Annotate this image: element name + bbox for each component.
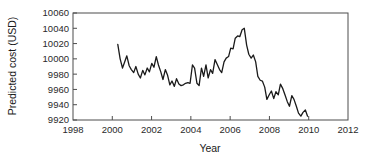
x-tick-label: 2002 [141,124,162,135]
x-tick-label: 2006 [220,124,241,135]
x-tick-label: 2000 [102,124,123,135]
y-tick-label: 10040 [43,23,69,34]
y-axis-title: Predicted cost (USD) [6,17,18,116]
x-tick-label: 2004 [180,124,201,135]
x-tick-label: 1998 [62,124,83,135]
y-tick-label: 9980 [48,69,69,80]
y-tick-label: 9940 [48,99,69,110]
y-tick-label: 10000 [43,53,69,64]
x-tick-label: 2008 [259,124,280,135]
x-tick-label: 2012 [337,124,358,135]
y-tick-label: 9960 [48,84,69,95]
x-axis-title: Year [199,142,221,154]
x-tick-label: 2010 [298,124,319,135]
chart-figure: 992099409960998010000100201004010060 199… [0,0,375,160]
y-tick-label: 10020 [43,38,69,49]
y-tick-label: 10060 [43,7,69,18]
line-chart: 992099409960998010000100201004010060 199… [0,0,375,160]
